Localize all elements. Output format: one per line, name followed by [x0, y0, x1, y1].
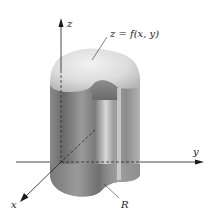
solid-region: [50, 49, 140, 197]
y-axis-arrow-icon: [195, 160, 204, 165]
highlight-stripe: [117, 88, 121, 180]
y-axis-label: y: [192, 146, 199, 157]
z-axis-arrow-icon: [59, 18, 64, 27]
region-leader-line: [104, 184, 119, 198]
region-label: R: [120, 199, 129, 210]
x-axis-label: x: [11, 199, 17, 210]
z-axis-label: z: [66, 18, 73, 29]
solid-base: [50, 164, 140, 197]
surface-label: z = f(x, y): [109, 28, 159, 39]
diagram-canvas: z z = f(x, y) y x R: [0, 0, 219, 222]
